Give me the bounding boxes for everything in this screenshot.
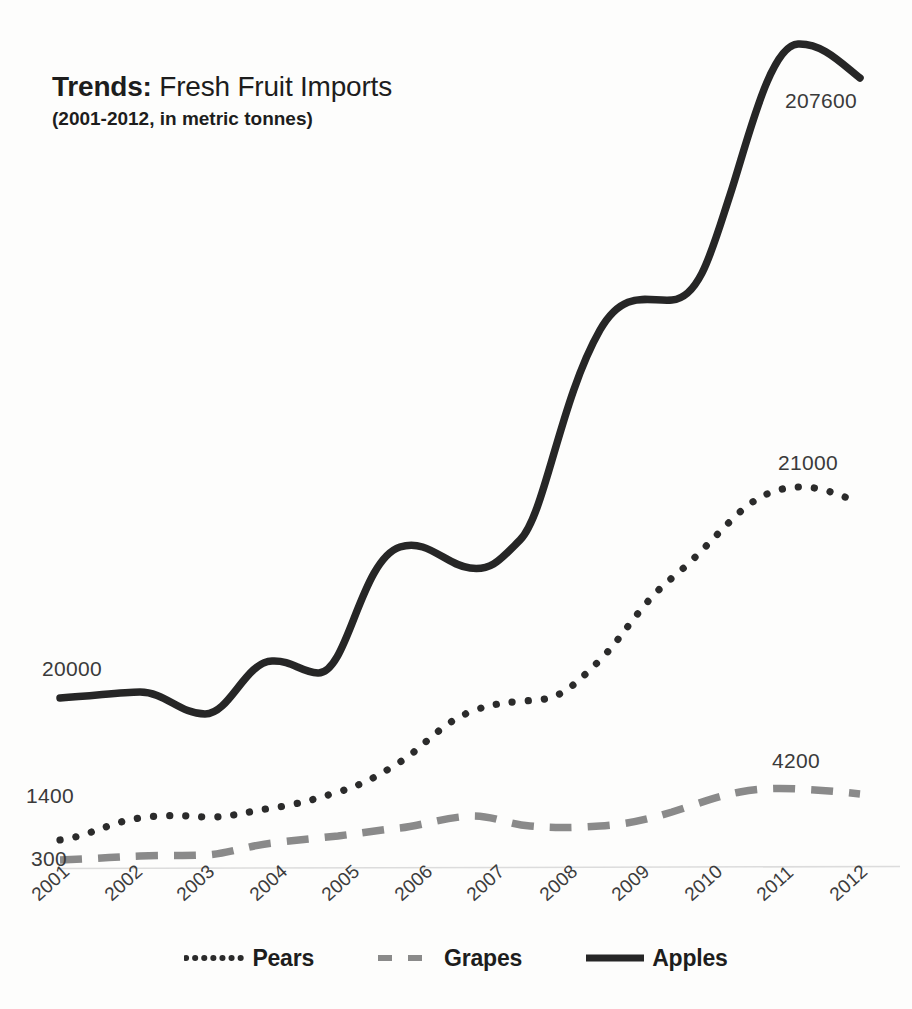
chart-svg <box>0 0 912 1009</box>
legend-label-pears: Pears <box>252 945 314 972</box>
value-label-apples-end: 207600 <box>785 90 857 111</box>
series-line-grapes <box>60 788 860 860</box>
x-axis-tick-2001: 2001 <box>28 861 73 904</box>
x-axis-tick-2002: 2002 <box>101 861 146 904</box>
x-axis-tick-2005: 2005 <box>318 861 363 904</box>
series-line-pears <box>60 487 860 840</box>
legend-item-pears[interactable]: Pears <box>184 945 314 972</box>
legend-item-apples[interactable]: Apples <box>584 945 727 972</box>
x-axis-tick-2011: 2011 <box>753 862 797 904</box>
x-axis-tick-2004: 2004 <box>246 861 291 904</box>
x-axis-tick-2010: 2010 <box>681 861 726 904</box>
x-axis-tick-2007: 2007 <box>463 861 508 904</box>
legend-item-grapes[interactable]: Grapes <box>376 945 522 972</box>
legend-label-apples: Apples <box>652 945 727 972</box>
legend-swatch-solid-icon <box>584 951 646 965</box>
x-axis-tick-2012: 2012 <box>826 861 871 904</box>
x-axis-tick-2003: 2003 <box>173 861 218 904</box>
value-label-apples-start: 20000 <box>42 658 102 679</box>
plot-area <box>0 0 912 1009</box>
value-label-grapes-end: 4200 <box>772 750 820 771</box>
legend-label-grapes: Grapes <box>444 945 522 972</box>
x-axis-tick-2008: 2008 <box>536 861 581 904</box>
value-label-pears-start: 1400 <box>26 785 74 806</box>
x-axis-tick-2009: 2009 <box>608 861 653 904</box>
legend-swatch-dashed-icon <box>376 951 438 965</box>
chart-legend: PearsGrapesApples <box>0 938 912 978</box>
x-axis-labels: 2001200220032004200520062007200820092010… <box>0 868 912 938</box>
x-axis-tick-2006: 2006 <box>391 861 436 904</box>
chart-page: Trends: Fresh Fruit Imports (2001-2012, … <box>0 0 912 1009</box>
value-label-pears-end: 21000 <box>778 452 838 473</box>
series-line-apples <box>60 44 860 714</box>
legend-swatch-dotted-icon <box>184 951 246 965</box>
